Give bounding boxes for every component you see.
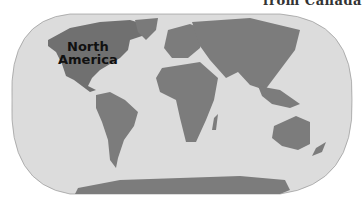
world-map (0, 0, 362, 206)
north-america-label: North America (58, 40, 118, 66)
label-line-2: America (58, 53, 118, 66)
